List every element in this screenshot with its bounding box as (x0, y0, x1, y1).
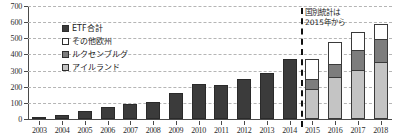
x-axis-tick-label: 2017 (347, 121, 370, 135)
bar[interactable] (214, 85, 228, 119)
x-axis-tick-mark (221, 121, 222, 125)
legend-item-other-europe[interactable]: その他欧州 (62, 35, 128, 48)
x-axis-tick-mark (335, 121, 336, 125)
bar-segment-other-europe (305, 59, 319, 79)
x-axis-tick-label: 2018 (369, 121, 392, 135)
bar[interactable] (237, 79, 251, 119)
bar[interactable] (146, 102, 160, 119)
x-axis-tick-label: 2009 (165, 121, 188, 135)
x-axis-labels: 2003200420052006200720082009201020112012… (28, 121, 392, 135)
legend-swatch-other-europe (62, 38, 69, 45)
y-axis-tick-label: 700 (0, 2, 22, 11)
legend-item-ireland[interactable]: アイルランド (62, 61, 128, 74)
legend-swatch-etf-total (62, 25, 69, 32)
bar-segment-other-europe (351, 32, 365, 51)
bar-slot (278, 6, 301, 119)
x-axis-tick-mark (85, 121, 86, 125)
x-axis-tick-label: 2007 (119, 121, 142, 135)
bar-segment-etf-total (283, 59, 297, 119)
x-axis-tick-label: 2016 (324, 121, 347, 135)
bar-segment-etf-total (101, 107, 115, 119)
x-axis-tick-mark (244, 121, 245, 125)
bar[interactable] (169, 93, 183, 119)
annotation-line-2: 2015年から (305, 18, 345, 28)
bar-slot (233, 6, 256, 119)
bar-slot (165, 6, 188, 119)
y-axis-tick-label: 0 (0, 115, 22, 124)
x-axis-tick-label: 2004 (51, 121, 74, 135)
bar[interactable] (351, 32, 365, 119)
bar[interactable] (374, 24, 388, 119)
bar-slot (347, 6, 370, 119)
bar-segment-ireland (374, 62, 388, 118)
x-axis-tick-mark (381, 121, 382, 125)
legend-item-etf-total[interactable]: ETF合計 (62, 22, 128, 35)
x-axis-tick-label: 2013 (256, 121, 279, 135)
x-axis-tick-mark (153, 121, 154, 125)
bar-segment-ireland (328, 77, 342, 118)
x-axis-tick-label: 2005 (74, 121, 97, 135)
bar[interactable] (328, 42, 342, 119)
x-axis-tick-mark (199, 121, 200, 125)
x-axis-tick-label: 2012 (233, 121, 256, 135)
bar-slot (28, 6, 51, 119)
x-axis-tick-label: 2006 (96, 121, 119, 135)
y-axis-tick-label: 200 (0, 82, 22, 91)
legend-label: ETF合計 (72, 24, 103, 33)
y-axis-tick-label: 600 (0, 18, 22, 27)
x-axis-tick-label: 2014 (278, 121, 301, 135)
bar-segment-ireland (305, 89, 319, 118)
bar[interactable] (101, 107, 115, 119)
bar-segment-luxembourg (328, 64, 342, 77)
legend-swatch-luxembourg (62, 51, 69, 58)
legend-item-luxembourg[interactable]: ルクセンブルグ (62, 48, 128, 61)
bar-segment-ireland (351, 70, 365, 118)
x-axis-tick-mark (267, 121, 268, 125)
bar-segment-etf-total (192, 84, 206, 119)
bar-segment-etf-total (55, 115, 69, 119)
bar[interactable] (55, 115, 69, 119)
x-axis-tick-mark (290, 121, 291, 125)
legend-label: ルクセンブルグ (72, 50, 128, 59)
legend: ETF合計その他欧州ルクセンブルグアイルランド (62, 22, 128, 74)
bar-slot (210, 6, 233, 119)
bar[interactable] (260, 73, 274, 119)
y-axis-tick-label: 100 (0, 98, 22, 107)
bar-segment-luxembourg (351, 50, 365, 69)
bar-segment-etf-total (214, 85, 228, 119)
y-axis-tick-label: 500 (0, 34, 22, 43)
bar-segment-etf-total (78, 111, 92, 119)
x-axis-tick-label: 2003 (28, 121, 51, 135)
bar-segment-other-europe (374, 24, 388, 39)
bar[interactable] (32, 117, 46, 119)
x-axis-tick-mark (130, 121, 131, 125)
bar-segment-etf-total (123, 104, 137, 119)
x-axis-tick-mark (62, 121, 63, 125)
x-axis-tick-label: 2010 (187, 121, 210, 135)
x-axis-tick-label: 2008 (142, 121, 165, 135)
bar-segment-etf-total (32, 117, 46, 119)
x-axis-tick-mark (176, 121, 177, 125)
bar-segment-luxembourg (305, 79, 319, 89)
bar[interactable] (283, 59, 297, 119)
bar[interactable] (78, 111, 92, 119)
legend-label: アイルランド (72, 63, 120, 72)
bar-slot (256, 6, 279, 119)
annotation-line-1: 国別統計は (305, 8, 340, 18)
x-axis-tick-mark (108, 121, 109, 125)
x-axis-line (28, 119, 392, 120)
bar[interactable] (123, 104, 137, 119)
x-axis-tick-label: 2015 (301, 121, 324, 135)
bar[interactable] (192, 84, 206, 119)
x-axis-tick-mark (358, 121, 359, 125)
bar-segment-etf-total (169, 93, 183, 119)
bar[interactable] (305, 59, 319, 119)
x-axis-tick-mark (312, 121, 313, 125)
bar-segment-etf-total (260, 73, 274, 119)
x-axis-tick-label: 2011 (210, 121, 233, 135)
bar-segment-etf-total (146, 102, 160, 119)
legend-label: その他欧州 (72, 37, 112, 46)
bar-segment-luxembourg (374, 39, 388, 62)
bar-slot (369, 6, 392, 119)
bar-slot (187, 6, 210, 119)
